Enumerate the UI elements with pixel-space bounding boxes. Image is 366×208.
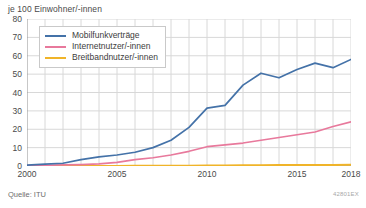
chart-axis-title: je 100 Einwohner/-innen [8,4,102,14]
figure-code: 42801EX [333,191,359,197]
legend-swatch-icon [45,46,66,48]
legend-item: Breitbandnutzer/-innen [45,52,158,63]
x-tick-label: 2010 [198,169,217,179]
y-tick-label: 20 [13,124,22,134]
legend-item-label: Mobilfunkverträge [72,31,140,40]
legend-item-label: Internetnutzer/-innen [72,42,150,51]
x-tick-label: 2005 [108,169,127,179]
chart-legend: MobilfunkverträgeInternetnutzer/-innenBr… [39,26,166,68]
legend-item-label: Breitbandnutzer/-innen [72,53,158,62]
x-axis-tick-labels: 20002005201020152018 [27,169,351,183]
y-axis-tick-labels: 01020304050607080 [0,19,22,166]
x-tick-label: 2015 [288,169,307,179]
legend-item: Internetnutzer/-innen [45,41,158,52]
y-tick-label: 80 [13,14,22,24]
y-tick-label: 50 [13,69,22,79]
legend-swatch-icon [45,57,66,59]
y-tick-label: 70 [13,32,22,42]
chart-figure: je 100 Einwohner/-innen 0102030405060708… [0,0,366,208]
y-tick-label: 40 [13,88,22,98]
source-note: Quelle: ITU [8,190,46,199]
y-tick-label: 30 [13,106,22,116]
x-tick-label: 2000 [18,169,37,179]
x-tick-label: 2018 [342,169,361,179]
y-tick-label: 10 [13,143,22,153]
y-tick-label: 60 [13,51,22,61]
legend-item: Mobilfunkverträge [45,30,158,41]
legend-swatch-icon [45,35,66,37]
